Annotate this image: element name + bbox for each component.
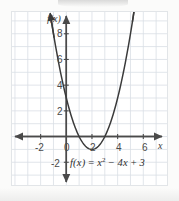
curve-path	[50, 12, 136, 149]
equation-term2: 4x	[118, 157, 128, 168]
y-tick-label-2: 2	[57, 107, 63, 117]
scan-artifact-bottom	[0, 188, 179, 201]
x-tick-label-4: 4	[116, 143, 122, 153]
scan-artifact-top	[58, 0, 128, 7]
equation-lhs: f(x)	[70, 157, 85, 168]
graph-figure: f(x) x -20246-22468 f(x) = x2 − 4x + 3	[0, 0, 179, 201]
y-tick-label-neg2: -2	[51, 159, 60, 169]
y-axis-label: f(x)	[47, 14, 61, 24]
equation-annotation: f(x) = x2 − 4x + 3	[70, 158, 145, 169]
y-tick-label-6: 6	[57, 55, 63, 65]
x-tick-label-0: 0	[64, 143, 70, 153]
equation-term3: 3	[140, 157, 145, 168]
x-tick-label-neg2: -2	[35, 143, 44, 153]
plot-area: f(x) x -20246-22468 f(x) = x2 − 4x + 3	[11, 11, 168, 186]
curve-arrow-right	[132, 12, 136, 22]
x-axis-label: x	[158, 141, 162, 151]
x-tick-label-6: 6	[142, 143, 148, 153]
y-tick-label-4: 4	[57, 81, 63, 91]
x-tick-label-2: 2	[90, 143, 96, 153]
y-tick-label-8: 8	[57, 29, 63, 39]
